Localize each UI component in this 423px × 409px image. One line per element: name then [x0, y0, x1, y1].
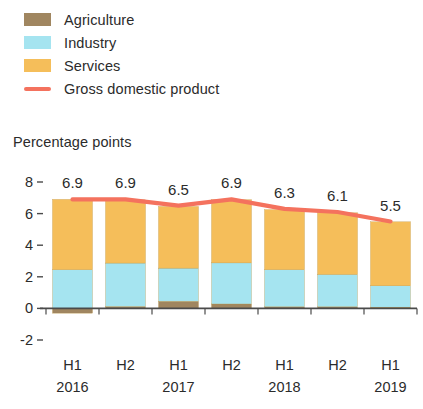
bar-segment-industry — [106, 263, 146, 306]
bar-segment-industry — [318, 274, 358, 306]
bar-segment-services — [212, 200, 252, 263]
bar-segment-industry — [212, 263, 252, 304]
data-label: 6.9 — [221, 174, 242, 191]
data-label: 6.1 — [327, 187, 348, 204]
y-axis-tick-label: 0 — [25, 300, 33, 316]
bar-segment-services — [265, 210, 305, 270]
data-label: 6.3 — [274, 184, 295, 201]
bar-segment-services — [53, 199, 93, 269]
y-axis-tick-label: 2 — [25, 269, 33, 285]
y-axis: 86420-2 — [20, 174, 43, 348]
x-axis-year-label: 2018 — [268, 379, 300, 395]
bar-segment-agriculture — [159, 301, 199, 308]
chart-svg: 86420-2 6.96.96.56.96.36.15.5 H1H2H1H2H1… — [0, 0, 423, 409]
bar-segment-services — [318, 213, 358, 275]
chart-plot-area: 86420-2 6.96.96.56.96.36.15.5 H1H2H1H2H1… — [0, 0, 423, 409]
x-axis-period-label: H1 — [381, 357, 400, 373]
x-axis-year-label: 2019 — [374, 379, 406, 395]
bar-segment-industry — [159, 268, 199, 301]
y-axis-tick-label: 4 — [25, 237, 33, 253]
y-axis-tick-label: 8 — [25, 174, 33, 190]
data-label: 6.9 — [115, 174, 136, 191]
x-axis-period-label: H2 — [222, 357, 241, 373]
bar-segment-services — [371, 222, 411, 286]
bar-segment-industry — [371, 286, 411, 307]
x-axis-period-label: H2 — [116, 357, 135, 373]
x-axis-period-label: H2 — [328, 357, 347, 373]
x-axis-year-label: 2016 — [56, 379, 88, 395]
x-axis-period-label: H1 — [275, 357, 294, 373]
y-axis-tick-label: 6 — [25, 206, 33, 222]
data-label: 5.5 — [380, 197, 401, 214]
bar-segment-services — [159, 206, 199, 268]
bar-segment-industry — [53, 270, 93, 309]
x-axis-period-label: H1 — [63, 357, 82, 373]
x-axis: H1H2H1H2H1H2H12016201720182019 — [40, 308, 417, 395]
y-axis-tick-label: -2 — [20, 332, 33, 348]
data-label: 6.5 — [168, 181, 189, 198]
bar-segment-services — [106, 200, 146, 263]
x-axis-period-label: H1 — [169, 357, 188, 373]
bar-segment-industry — [265, 270, 305, 307]
data-label: 6.9 — [62, 174, 83, 191]
x-axis-year-label: 2017 — [162, 379, 194, 395]
